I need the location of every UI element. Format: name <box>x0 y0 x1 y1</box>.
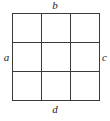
grid-line-vertical <box>99 13 100 101</box>
edge-label-right: c <box>99 52 110 63</box>
three-by-three-grid <box>12 13 100 101</box>
edge-label-left: a <box>1 52 12 63</box>
grid-line-horizontal <box>12 42 100 43</box>
grid-line-vertical <box>12 13 13 101</box>
grid-figure: b a c d <box>0 0 110 121</box>
grid-line-horizontal <box>12 13 100 14</box>
grid-line-vertical <box>41 13 42 101</box>
grid-line-vertical <box>70 13 71 101</box>
edge-label-bottom: d <box>0 104 110 115</box>
grid-line-horizontal <box>12 71 100 72</box>
grid-line-horizontal <box>12 100 100 101</box>
edge-label-top: b <box>0 0 110 11</box>
